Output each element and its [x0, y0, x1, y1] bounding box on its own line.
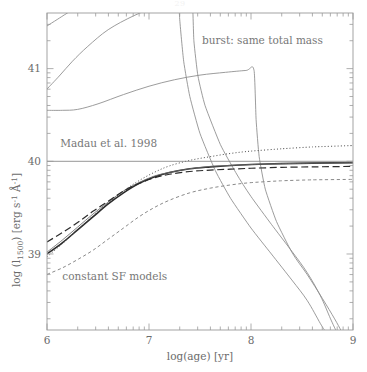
y-axis-title-prefix: log (l — [10, 259, 22, 287]
y-axis-title-angstrom: Å — [9, 184, 22, 195]
x-tick-label-9: 9 — [350, 334, 357, 346]
annotation-madau-label: Madau et al. 1998 — [60, 137, 157, 149]
x-tick-label-8: 8 — [248, 334, 255, 346]
annotation-constant-sf-label: constant SF models — [62, 270, 167, 282]
plot-frame — [47, 13, 353, 330]
page-number: 29 — [160, 0, 200, 8]
x-axis-ticks — [47, 13, 353, 330]
curve-6 — [47, 166, 353, 242]
curve-5 — [47, 146, 353, 257]
y-tick-label-40: 40 — [28, 155, 41, 167]
chart-annotations: burst: same total massMadau et al. 1998c… — [60, 34, 323, 282]
y-tick-label-41: 41 — [28, 62, 41, 74]
x-axis-title: log(age) [yr] — [167, 350, 233, 362]
y-axis-title-middle: ) [erg s — [10, 203, 22, 241]
curve-3 — [47, 163, 353, 254]
y-axis-title-sup1: -1 — [10, 195, 19, 202]
y-axis-title-sup2: -1 — [10, 177, 19, 184]
x-tick-label-6: 6 — [44, 334, 51, 346]
x-tick-label-7: 7 — [146, 334, 153, 346]
figure-container: 29 6789 394041 log(age) [yr] log (l1500)… — [0, 0, 367, 372]
y-axis-title-suffix: ] — [10, 173, 22, 177]
uv-luminosity-chart: 6789 394041 log(age) [yr] log (l1500) [e… — [0, 0, 367, 372]
y-tick-label-39: 39 — [28, 248, 41, 260]
curve-7 — [47, 179, 353, 274]
curve-4 — [47, 163, 353, 252]
curve-2 — [47, 67, 341, 330]
y-axis-tick-labels: 394041 — [28, 62, 41, 259]
svg-text:log (l1500) [erg s-1 Å-1]: log (l1500) [erg s-1 Å-1] — [9, 173, 25, 287]
annotation-burst-label: burst: same total mass — [202, 34, 323, 46]
y-axis-title-subscript: 1500 — [16, 241, 25, 260]
x-axis-tick-labels: 6789 — [44, 334, 357, 346]
y-axis-title: log (l1500) [erg s-1 Å-1] — [9, 173, 25, 287]
